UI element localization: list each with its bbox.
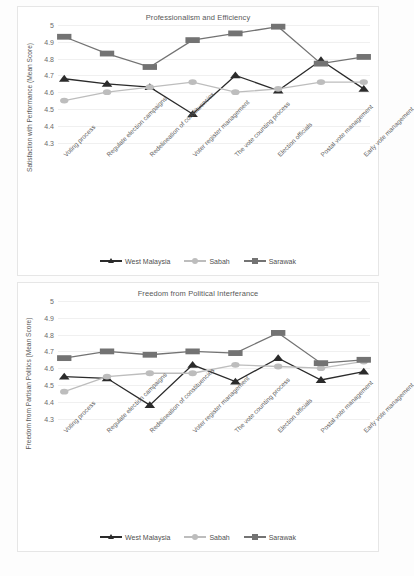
marker-west-malaysia (358, 368, 369, 375)
chart-card-freedom: Freedom from Political Interferance Free… (17, 282, 379, 552)
y-tick-label: 4.3 (38, 139, 54, 146)
chart-card-professionalism: Professionalism and Efficiency Satisfact… (17, 6, 379, 276)
marker-sarawak (57, 355, 71, 361)
marker-sabah (188, 79, 196, 85)
marker-west-malaysia (59, 75, 70, 82)
marker-sabah (317, 365, 325, 371)
legend: West MalaysiaSabahSarawak (18, 533, 378, 541)
plot-area: 54.94.84.74.64.54.44.3 Voting processReg… (38, 25, 372, 247)
marker-west-malaysia (230, 71, 241, 78)
marker-sarawak (357, 54, 371, 60)
legend: West MalaysiaSabahSarawak (18, 257, 378, 265)
marker-sarawak (100, 349, 114, 355)
y-axis-label: Satisfaction with Performance (Mean Scor… (23, 7, 35, 207)
marker-sarawak (271, 24, 285, 30)
y-tick-label: 4.8 (38, 55, 54, 62)
y-tick-label: 4.9 (38, 38, 54, 45)
marker-sarawak (185, 349, 199, 355)
plot-area: 54.94.84.74.64.54.44.3 Voting processReg… (38, 301, 372, 523)
legend-marker-circle (192, 534, 198, 540)
marker-sabah (274, 364, 282, 370)
legend-marker-triangle (108, 534, 114, 539)
legend-marker-square (252, 534, 258, 540)
y-tick-label: 4.7 (38, 348, 54, 355)
marker-sarawak (57, 34, 71, 40)
marker-sarawak (357, 357, 371, 363)
legend-item-west-malaysia[interactable]: West Malaysia (100, 533, 170, 541)
legend-swatch (244, 257, 266, 265)
y-tick-label: 4.9 (38, 314, 54, 321)
marker-sabah (60, 389, 68, 395)
x-axis-labels: Voting processRegulate election campaign… (58, 153, 370, 245)
marker-sabah (274, 86, 282, 92)
marker-sabah (360, 79, 368, 85)
y-tick-label: 4.6 (38, 365, 54, 372)
y-tick-label: 4.7 (38, 72, 54, 79)
legend-item-west-malaysia[interactable]: West Malaysia (100, 257, 170, 265)
marker-sabah (231, 89, 239, 95)
marker-sabah (188, 370, 196, 376)
marker-sarawak (228, 350, 242, 356)
y-axis-label-text: Satisfaction with Performance (Mean Scor… (26, 43, 33, 172)
marker-sabah (317, 79, 325, 85)
y-tick-label: 4.3 (38, 415, 54, 422)
legend-item-sabah[interactable]: Sabah (184, 533, 229, 541)
marker-west-malaysia (187, 361, 198, 368)
x-axis-labels: Voting processRegulate election campaign… (58, 429, 370, 521)
y-tick-label: 4.6 (38, 89, 54, 96)
marker-west-malaysia (273, 354, 284, 361)
legend-item-sarawak[interactable]: Sarawak (244, 533, 296, 541)
legend-marker-circle (192, 258, 198, 264)
legend-swatch (100, 533, 122, 541)
legend-label: West Malaysia (125, 258, 170, 265)
y-tick-label: 4.5 (38, 382, 54, 389)
marker-sarawak (185, 37, 199, 43)
marker-sabah (146, 84, 154, 90)
y-tick-label: 4.5 (38, 106, 54, 113)
series-line-sarawak (64, 333, 364, 363)
marker-sabah (103, 374, 111, 380)
legend-label: West Malaysia (125, 534, 170, 541)
legend-marker-triangle (108, 258, 114, 263)
marker-sarawak (143, 64, 157, 70)
marker-sabah (103, 89, 111, 95)
y-tick-label: 4.4 (38, 398, 54, 405)
marker-sarawak (314, 61, 328, 67)
legend-marker-square (252, 258, 258, 264)
legend-item-sarawak[interactable]: Sarawak (244, 257, 296, 265)
marker-sabah (231, 362, 239, 368)
legend-label: Sarawak (269, 534, 296, 541)
y-tick-label: 4.8 (38, 331, 54, 338)
legend-swatch (100, 257, 122, 265)
y-tick-label: 4.4 (38, 122, 54, 129)
y-axis-label-text: Freedom from Partisan Politics (Mean Sco… (26, 317, 33, 449)
y-tick-label: 5 (38, 298, 54, 305)
legend-label: Sabah (209, 534, 229, 541)
marker-sarawak (271, 330, 285, 336)
y-tick-label: 5 (38, 22, 54, 29)
y-axis-label: Freedom from Partisan Politics (Mean Sco… (23, 283, 35, 483)
legend-swatch (184, 533, 206, 541)
marker-sarawak (314, 360, 328, 366)
marker-sarawak (143, 352, 157, 358)
marker-sarawak (228, 31, 242, 37)
marker-sarawak (100, 51, 114, 57)
legend-label: Sarawak (269, 258, 296, 265)
marker-sabah (60, 98, 68, 104)
legend-label: Sabah (209, 258, 229, 265)
chart-title: Freedom from Political Interferance (18, 289, 378, 298)
legend-item-sabah[interactable]: Sabah (184, 257, 229, 265)
legend-swatch (244, 533, 266, 541)
marker-sabah (146, 370, 154, 376)
legend-swatch (184, 257, 206, 265)
chart-title: Professionalism and Efficiency (18, 13, 378, 22)
